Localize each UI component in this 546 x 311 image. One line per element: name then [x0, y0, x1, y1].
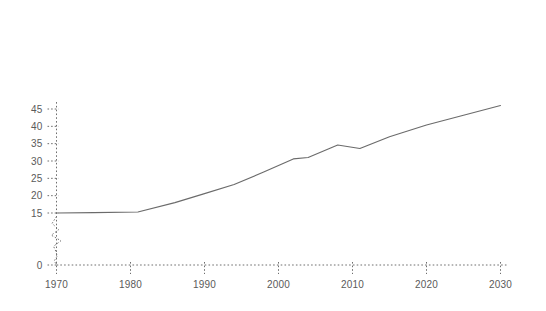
chart-canvas: 0152025303540451970198019902000201020202… [0, 0, 546, 311]
x-axis-tick-label: 1970 [45, 279, 68, 290]
y-axis-tick-label: 30 [31, 156, 43, 167]
x-axis-tick-label: 2020 [415, 279, 438, 290]
y-axis-tick-label: 15 [31, 208, 43, 219]
y-axis-tick-label: 25 [31, 173, 43, 184]
y-axis-tick-label: 35 [31, 138, 43, 149]
y-axis-tick-label: 0 [37, 260, 43, 271]
x-axis-tick-label: 2030 [489, 279, 512, 290]
y-axis-tick-label: 40 [31, 121, 43, 132]
x-axis-tick-label: 1990 [193, 279, 216, 290]
line-chart: 0152025303540451970198019902000201020202… [0, 0, 546, 311]
series-line-main [57, 106, 501, 213]
y-axis-tick-label: 45 [31, 104, 43, 115]
x-axis-tick-label: 2010 [341, 279, 364, 290]
x-axis-tick-label: 2000 [267, 279, 290, 290]
y-axis-tick-label: 20 [31, 190, 43, 201]
x-axis-tick-label: 1980 [119, 279, 142, 290]
